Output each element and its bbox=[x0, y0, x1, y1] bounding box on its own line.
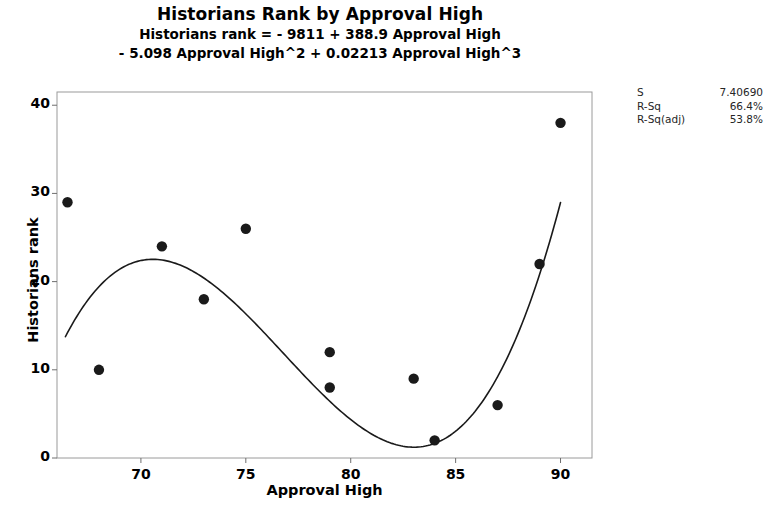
y-axis-tick-label: 0 bbox=[16, 448, 50, 464]
stat-label-rsq: R-Sq bbox=[637, 100, 661, 114]
data-point-marker bbox=[555, 118, 565, 128]
x-axis-tick-label: 80 bbox=[331, 466, 371, 482]
regression-equation-line-2: - 5.098 Approval High^2 + 0.02213 Approv… bbox=[0, 44, 640, 63]
x-axis-tick-label: 85 bbox=[436, 466, 476, 482]
stat-value-rsq: 66.4% bbox=[730, 100, 763, 114]
x-axis-title: Approval High bbox=[57, 482, 592, 498]
y-axis-tick-label: 40 bbox=[16, 95, 50, 111]
stat-row-s: S 7.40690 bbox=[637, 86, 763, 100]
data-point-marker bbox=[94, 365, 104, 375]
x-axis-tick-label: 75 bbox=[226, 466, 266, 482]
stat-label-rsq-adj: R-Sq(adj) bbox=[637, 113, 685, 127]
plot-area bbox=[0, 0, 765, 511]
chart-container: Historians Rank by Approval High Histori… bbox=[0, 0, 765, 511]
stat-value-s: 7.40690 bbox=[720, 86, 763, 100]
regression-fit-line bbox=[65, 203, 560, 448]
stat-value-rsq-adj: 53.8% bbox=[730, 113, 763, 127]
data-point-marker bbox=[62, 197, 72, 207]
plot-frame bbox=[57, 92, 592, 458]
data-point-marker bbox=[492, 400, 502, 410]
axes-layer bbox=[52, 92, 592, 463]
statistics-box: S 7.40690 R-Sq 66.4% R-Sq(adj) 53.8% bbox=[637, 86, 763, 127]
fit-line-layer bbox=[65, 203, 560, 448]
data-point-marker bbox=[325, 347, 335, 357]
x-axis-tick-label: 90 bbox=[541, 466, 581, 482]
data-point-marker bbox=[408, 373, 418, 383]
data-point-marker bbox=[157, 241, 167, 251]
data-point-marker bbox=[199, 294, 209, 304]
data-point-marker bbox=[325, 382, 335, 392]
title-block: Historians Rank by Approval High Histori… bbox=[0, 4, 640, 63]
data-point-marker bbox=[241, 224, 251, 234]
page-title: Historians Rank by Approval High bbox=[0, 4, 640, 25]
stat-label-s: S bbox=[637, 86, 644, 100]
x-axis-tick-label: 70 bbox=[121, 466, 161, 482]
data-point-marker bbox=[534, 259, 544, 269]
stat-row-rsq: R-Sq 66.4% bbox=[637, 100, 763, 114]
stat-row-rsq-adj: R-Sq(adj) 53.8% bbox=[637, 113, 763, 127]
data-points-layer bbox=[62, 118, 565, 446]
data-point-marker bbox=[429, 435, 439, 445]
regression-equation-line-1: Historians rank = - 9811 + 388.9 Approva… bbox=[0, 25, 640, 44]
y-axis-title: Historians rank bbox=[25, 185, 41, 375]
